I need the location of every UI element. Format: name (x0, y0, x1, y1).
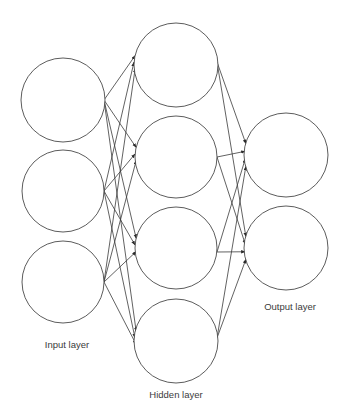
edge-i3-h4 (104, 282, 136, 345)
output-node-1[interactable] (244, 113, 328, 197)
neural-network-canvas: Input layer Hidden layer Output layer (0, 0, 347, 413)
edges-input-to-hidden (104, 56, 136, 345)
edges-hidden-to-output (217, 62, 246, 338)
input-layer-label: Input layer (45, 339, 89, 350)
output-layer-label: Output layer (264, 301, 316, 312)
edge-i2-h1 (104, 62, 134, 191)
edge-i2-h3 (104, 191, 135, 245)
input-node-1[interactable] (21, 58, 105, 142)
hidden-node-2[interactable] (135, 116, 217, 198)
neural-network-diagram: Input layer Hidden layer Output layer (0, 0, 347, 413)
hidden-node-4[interactable] (134, 299, 218, 383)
edge-i3-h3 (104, 252, 136, 283)
edge-h4-o2 (217, 259, 246, 338)
network-nodes (21, 23, 328, 383)
input-node-3[interactable] (22, 241, 104, 323)
hidden-layer-label: Hidden layer (149, 389, 202, 400)
edge-i1-h2 (104, 100, 136, 148)
output-node-2[interactable] (244, 206, 328, 290)
hidden-node-1[interactable] (134, 23, 218, 107)
edge-h1-o1 (217, 62, 246, 144)
edge-i3-h1 (104, 69, 135, 283)
edge-h2-o2 (217, 157, 245, 244)
input-node-2[interactable] (22, 150, 104, 232)
edge-i3-h2 (104, 161, 136, 283)
hidden-node-3[interactable] (135, 207, 217, 289)
edge-h2-o1 (217, 151, 245, 157)
edge-h1-o2 (217, 62, 246, 237)
